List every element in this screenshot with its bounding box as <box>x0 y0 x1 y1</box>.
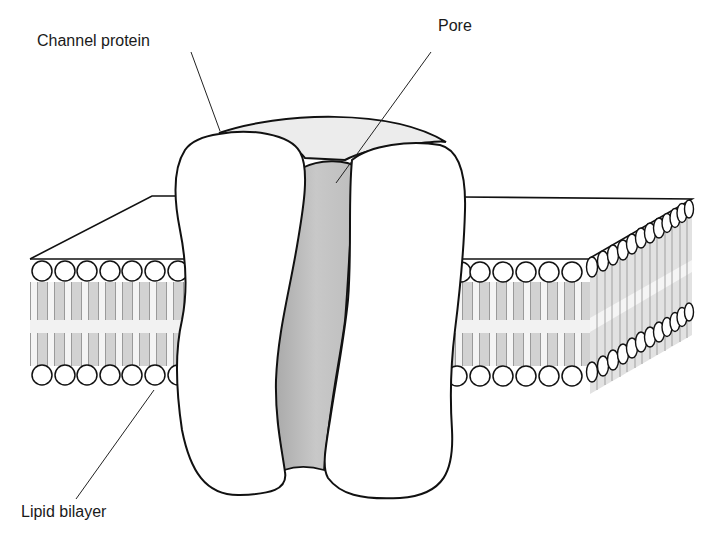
channel-protein-leader <box>191 52 220 131</box>
channel-protein-label: Channel protein <box>37 32 150 50</box>
channel-protein-diagram <box>0 0 717 549</box>
channel-protein <box>175 117 465 499</box>
pore-label: Pore <box>438 17 472 35</box>
lipid-bilayer-side <box>587 200 694 394</box>
lipid-bilayer-leader <box>76 390 154 499</box>
lipid-bilayer-label: Lipid bilayer <box>21 503 106 521</box>
